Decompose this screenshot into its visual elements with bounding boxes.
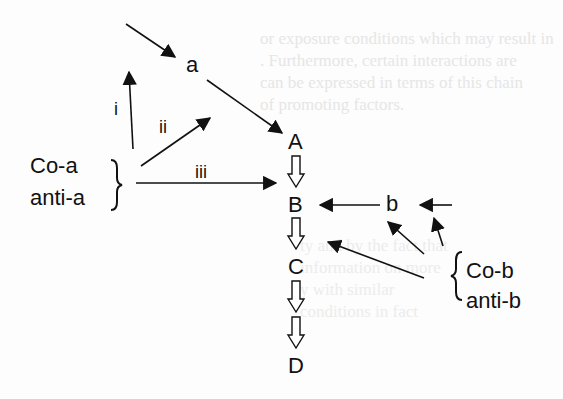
arrow-ii: [141, 118, 210, 166]
node-B: B: [288, 194, 303, 216]
node-A: A: [288, 131, 303, 153]
hollow-arrow-B-C: [288, 218, 304, 249]
agent-co-a: Co-a: [30, 155, 78, 177]
arrow-a-to-A: [207, 80, 282, 133]
arrow-cob-to-b: [388, 222, 424, 254]
node-a: a: [186, 54, 198, 76]
label-i: i: [114, 100, 118, 118]
agent-anti-a: anti-a: [30, 187, 85, 209]
node-D: D: [288, 355, 304, 377]
agent-anti-b: anti-b: [466, 290, 521, 312]
brace-left: [451, 252, 462, 300]
arrow-i: [129, 72, 133, 149]
brace-right: [111, 160, 122, 210]
hollow-arrow-C-D-2: [288, 317, 304, 348]
node-b: b: [386, 193, 398, 215]
arrow-into-a: [126, 24, 175, 57]
label-iii: iii: [195, 163, 207, 181]
hollow-arrow-C-D-1: [288, 281, 304, 312]
label-ii: ii: [159, 118, 167, 136]
agent-co-b: Co-b: [466, 260, 514, 282]
pathway-diagram: or exposure conditions which may result …: [0, 0, 563, 399]
hollow-arrow-A-B: [288, 156, 304, 187]
arrow-cob-upstream: [434, 218, 443, 246]
node-C: C: [288, 256, 304, 278]
arrow-cob-to-BC: [328, 242, 424, 278]
